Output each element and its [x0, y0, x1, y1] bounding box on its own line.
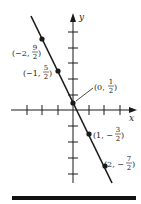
x-axis: x: [11, 105, 137, 123]
x-axis-label: x: [129, 113, 134, 123]
svg-text:): ): [38, 49, 41, 58]
svg-text:(−1,: (−1,: [23, 69, 40, 78]
svg-text:(1, −: (1, −: [93, 131, 113, 140]
point-neg1: [55, 68, 60, 73]
svg-text:(2, −: (2, −: [104, 160, 124, 169]
svg-text:2: 2: [116, 135, 120, 143]
y-axis-label: y: [78, 12, 85, 22]
label-point-2: (2, − 7 2 ): [104, 155, 135, 172]
graph-canvas: x y (−2, 9: [0, 0, 141, 204]
bottom-rule: [12, 196, 136, 200]
svg-text:9: 9: [33, 44, 37, 52]
svg-text:2: 2: [109, 87, 113, 95]
svg-text:): ): [121, 131, 124, 140]
svg-text:(0,: (0,: [94, 83, 105, 92]
point-neg2: [39, 36, 44, 41]
label-leader-line: [76, 88, 93, 101]
svg-text:7: 7: [127, 155, 131, 163]
svg-text:): ): [49, 69, 52, 78]
point-1: [86, 131, 91, 136]
label-point-neg1: (−1, 5 2 ): [23, 64, 52, 81]
y-axis-arrow-icon: [70, 13, 76, 22]
label-point-neg2: (−2, 9 2 ): [12, 44, 41, 61]
point-0: [70, 100, 75, 105]
svg-text:(−2,: (−2,: [12, 49, 29, 58]
svg-text:5: 5: [44, 64, 48, 72]
svg-text:2: 2: [33, 53, 37, 61]
label-point-0: (0, 1 2 ): [94, 78, 117, 95]
svg-text:2: 2: [44, 73, 48, 81]
svg-text:): ): [114, 83, 117, 92]
svg-text:1: 1: [109, 78, 113, 86]
svg-text:3: 3: [116, 126, 120, 134]
label-point-1: (1, − 3 2 ): [93, 126, 124, 143]
svg-text:2: 2: [127, 164, 131, 172]
svg-text:): ): [132, 160, 135, 169]
